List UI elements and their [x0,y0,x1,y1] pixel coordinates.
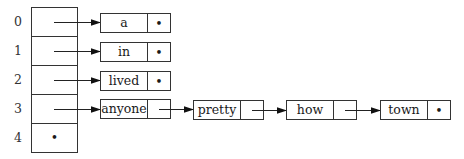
list-node-lived: lived • [101,72,171,91]
list-node-anyone: anyone [101,100,194,119]
null-pointer-icon: • [155,16,162,31]
index-label: 2 [14,72,22,87]
list-node-town: town • [381,101,451,120]
list-node-how: how [287,101,381,120]
node-value: how [297,102,324,117]
node-value: pretty [198,102,237,117]
list-node-a: a • [101,14,171,33]
list-node-in: in • [101,43,171,62]
node-value: lived [109,73,139,88]
null-pointer-icon: • [435,103,442,118]
hash-table-diagram: 0 1 2 3 4 • a • in • lived • [0,0,464,159]
list-node-pretty: pretty [194,101,287,120]
node-value: in [118,44,130,59]
null-pointer-icon: • [155,74,162,89]
index-label: 4 [14,130,22,145]
node-value: a [120,15,128,30]
node-value: town [388,102,419,117]
array-indices: 0 1 2 3 4 [14,14,22,145]
node-value: anyone [101,101,147,116]
null-pointer-icon: • [155,45,162,60]
index-label: 0 [14,14,22,29]
null-pointer-icon: • [51,130,58,145]
index-label: 3 [14,101,22,116]
index-label: 1 [14,43,22,58]
